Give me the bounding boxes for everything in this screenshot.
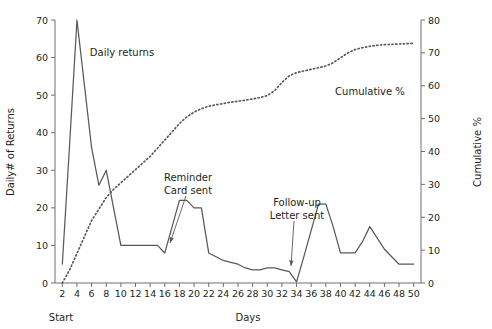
x-tick-label: 34 [291, 288, 303, 299]
y-tick-label: 30 [36, 165, 48, 176]
y-axis-right-title: Cumulative % [472, 117, 483, 187]
y-tick-label: 20 [36, 202, 48, 213]
x-tick-label: 32 [276, 288, 288, 299]
x-tick-label: 42 [349, 288, 361, 299]
annotation-leader-reminder-card-annotation [170, 196, 186, 243]
x-tick-label: 10 [115, 288, 127, 299]
y-tick-label: 40 [36, 127, 48, 138]
x-tick-label: 4 [74, 288, 80, 299]
x-tick-label: 12 [129, 288, 141, 299]
x-tick-label: 46 [378, 288, 390, 299]
x-tick-label: 24 [217, 288, 229, 299]
annotation-arrowhead-reminder-card-annotation [170, 237, 174, 243]
annotation-group: Daily returnsCumulative %ReminderCard se… [90, 47, 405, 266]
x-tick-label: 22 [203, 288, 215, 299]
x-tick-label: 6 [89, 288, 95, 299]
x-tick-label: 26 [232, 288, 244, 299]
y-axis-left-ticks: 010203040506070 [36, 15, 55, 289]
y-tick-label: 0 [42, 278, 48, 289]
x-tick-label: 40 [334, 288, 346, 299]
series-line-1 [62, 20, 413, 282]
x-tick-label: 48 [393, 288, 405, 299]
y-tick-label: 50 [36, 90, 48, 101]
x-axis-ticks: 2468101214161820222426283032343638404244… [59, 283, 419, 299]
y-tick-label: 70 [36, 15, 48, 26]
annotation-label2-followup-letter-annotation: Letter sent [270, 210, 325, 221]
y-tick-label: 10 [36, 240, 48, 251]
x-tick-label: 36 [305, 288, 317, 299]
y-axis-right: 01020304050607080 Cumulative % [421, 15, 483, 289]
y2-tick-label: 0 [428, 278, 434, 289]
y-axis-left-title: Daily# of Returns [5, 108, 16, 196]
y2-tick-label: 60 [428, 80, 440, 91]
x-tick-label: 30 [261, 288, 273, 299]
annotation-leader-followup-letter-annotation [291, 221, 294, 266]
annotation-label-cumulative-label: Cumulative % [335, 86, 405, 97]
x-tick-label: 2 [59, 288, 65, 299]
y2-tick-label: 40 [428, 146, 440, 157]
y-axis-right-ticks: 01020304050607080 [421, 15, 440, 289]
series-line-2 [62, 43, 413, 283]
y2-tick-label: 50 [428, 113, 440, 124]
x-tick-label: 50 [408, 288, 420, 299]
x-tick-label: 14 [144, 288, 156, 299]
annotation-label-reminder-card-annotation: Reminder [164, 172, 213, 183]
y2-tick-label: 70 [428, 47, 440, 58]
y2-tick-label: 10 [428, 245, 440, 256]
returns-chart: 010203040506070 Daily# of Returns 010203… [0, 0, 492, 329]
y2-tick-label: 80 [428, 15, 440, 26]
y2-tick-label: 20 [428, 212, 440, 223]
x-tick-label: 16 [159, 288, 171, 299]
x-tick-label: 8 [103, 288, 109, 299]
x-axis: 2468101214161820222426283032343638404244… [49, 283, 421, 323]
annotation-arrowhead-followup-letter-annotation [289, 260, 293, 266]
x-tick-label: 20 [188, 288, 200, 299]
x-tick-label: 18 [173, 288, 185, 299]
annotation-label-daily-returns-label: Daily returns [90, 47, 154, 58]
annotation-label2-reminder-card-annotation: Card sent [164, 185, 212, 196]
annotation-label-followup-letter-annotation: Follow-up [273, 197, 321, 208]
data-series-group [62, 20, 413, 283]
x-tick-label: 44 [364, 288, 376, 299]
x-tick-label: 28 [247, 288, 259, 299]
y-axis-left: 010203040506070 Daily# of Returns [5, 15, 55, 289]
x-axis-start-label: Start [49, 312, 74, 323]
y-tick-label: 60 [36, 52, 48, 63]
x-axis-title: Days [236, 312, 261, 323]
x-tick-label: 38 [320, 288, 332, 299]
y2-tick-label: 30 [428, 179, 440, 190]
chart-figure: 010203040506070 Daily# of Returns 010203… [0, 0, 492, 329]
